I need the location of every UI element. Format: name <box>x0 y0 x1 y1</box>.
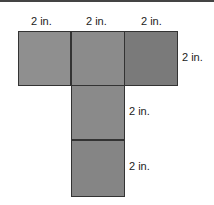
label-right-row: 2 in. <box>182 51 203 63</box>
square-bottom <box>71 140 125 197</box>
label-middle-square: 2 in. <box>129 105 150 117</box>
square-left <box>18 31 71 86</box>
label-top-3: 2 in. <box>141 15 162 27</box>
label-top-1: 2 in. <box>31 15 52 27</box>
square-right <box>124 31 178 86</box>
label-top-2: 2 in. <box>86 15 107 27</box>
top-border-line <box>0 0 214 2</box>
label-bottom-square: 2 in. <box>129 160 150 172</box>
square-middle <box>71 85 125 140</box>
square-center <box>71 31 125 86</box>
